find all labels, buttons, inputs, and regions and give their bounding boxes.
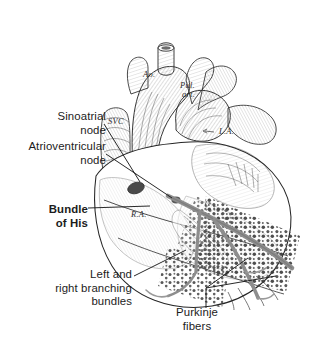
heart-conduction-diagram: Ao. Pul. art. SVC L.A. R.A. Sinoatrial n… xyxy=(0,0,327,348)
callout-purkinje-fibers: Purkinje fibers xyxy=(160,306,234,333)
callout-bundle-of-his: Bundle of His xyxy=(6,203,88,230)
callout-atrioventricular-node: Atrioventricular node xyxy=(0,140,106,167)
label-right-atrium: R.A. xyxy=(130,210,147,219)
label-aorta: Ao. xyxy=(142,70,155,79)
callout-branching-bundles: Left and right branching bundles xyxy=(10,268,132,309)
label-svc: SVC xyxy=(108,117,124,126)
label-pulmonary-artery-2: art. xyxy=(182,90,195,99)
callout-sinoatrial-node: Sinoatrial node xyxy=(8,110,106,137)
label-pulmonary-artery-1: Pul. xyxy=(179,81,195,90)
label-left-atrium: L.A. xyxy=(218,127,234,136)
